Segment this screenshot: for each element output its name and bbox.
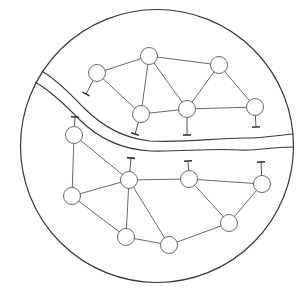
network-node-K <box>254 176 271 193</box>
network-node-G <box>66 127 83 144</box>
antenna-icon <box>184 161 192 171</box>
antenna-crossbar <box>127 158 135 159</box>
network-node-M <box>118 229 135 246</box>
network-node-E <box>211 57 228 74</box>
antenna-mast <box>261 162 262 176</box>
network-node-D <box>179 101 196 118</box>
antenna-mast <box>86 81 93 94</box>
network-node-N <box>161 237 178 254</box>
antenna-icon <box>252 115 260 127</box>
link-A-C <box>97 73 141 114</box>
link-B-E <box>149 56 219 65</box>
antenna-icon <box>82 81 93 96</box>
antenna-mast <box>130 158 131 172</box>
antenna-icon <box>127 158 135 172</box>
link-J-K <box>189 179 262 184</box>
link-B-D <box>149 56 187 109</box>
antenna-crossbar <box>131 133 139 135</box>
region-boundary <box>21 10 294 283</box>
antenna-icon <box>131 122 139 135</box>
antenna-mast <box>255 115 256 127</box>
network-node-J <box>181 171 198 188</box>
network-node-A <box>89 65 106 82</box>
link-G-H <box>74 135 129 180</box>
network-node-H <box>121 172 138 189</box>
link-D-F <box>187 107 255 109</box>
network-node-C <box>133 106 150 123</box>
antenna-crossbar <box>82 92 89 96</box>
link-H-N <box>129 180 169 245</box>
antennas-layer <box>71 81 265 176</box>
network-node-I <box>64 188 81 205</box>
antenna-mast <box>135 122 139 134</box>
antenna-mast <box>74 117 75 127</box>
link-I-M <box>72 196 126 237</box>
link-G-I <box>72 135 74 196</box>
network-node-F <box>247 99 264 116</box>
network-node-B <box>141 48 158 65</box>
antenna-mast <box>188 161 189 171</box>
network-diagram <box>0 0 306 291</box>
antenna-icon <box>183 118 191 136</box>
link-H-J <box>129 179 189 180</box>
link-N-L <box>169 223 229 245</box>
antenna-icon <box>257 162 265 176</box>
network-node-L <box>221 215 238 232</box>
